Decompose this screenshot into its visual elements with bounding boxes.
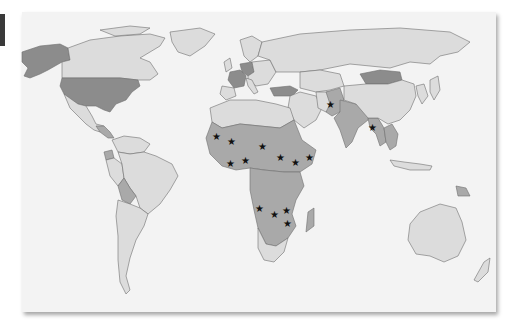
star-icon: ★ — [291, 157, 300, 168]
region-southeast-asia — [384, 124, 398, 150]
region-iberia — [220, 86, 236, 100]
region-argentina-chile — [116, 200, 148, 294]
star-icon: ★ — [255, 203, 264, 214]
star-icon: ★ — [227, 136, 236, 147]
star-icon: ★ — [326, 99, 335, 110]
region-new-zealand — [474, 258, 490, 282]
region-papua-new-guinea — [456, 186, 470, 196]
region-north-africa — [210, 100, 294, 128]
region-scandinavia — [240, 36, 262, 62]
region-russia — [258, 28, 470, 72]
world-map: ★ ★ ★ ★ ★ ★ ★ ★ ★ ★ ★ ★ ★ ★ — [0, 0, 515, 327]
star-icon: ★ — [270, 209, 279, 220]
star-icon: ★ — [212, 131, 221, 142]
star-icon: ★ — [258, 141, 267, 152]
star-icon: ★ — [276, 152, 285, 163]
region-korea-japan — [416, 76, 440, 104]
star-icon: ★ — [368, 122, 377, 133]
region-indonesia — [390, 160, 432, 170]
region-colombia-venezuela — [112, 136, 150, 154]
star-icon: ★ — [283, 218, 292, 229]
region-greenland — [170, 28, 215, 56]
region-madagascar — [306, 208, 314, 232]
star-icon: ★ — [282, 205, 291, 216]
region-australia — [408, 204, 466, 262]
region-canada — [62, 34, 165, 80]
region-central-america — [96, 126, 114, 138]
star-icon: ★ — [305, 152, 314, 163]
region-uk — [224, 58, 232, 72]
star-icon: ★ — [241, 155, 250, 166]
star-icon: ★ — [226, 158, 235, 169]
